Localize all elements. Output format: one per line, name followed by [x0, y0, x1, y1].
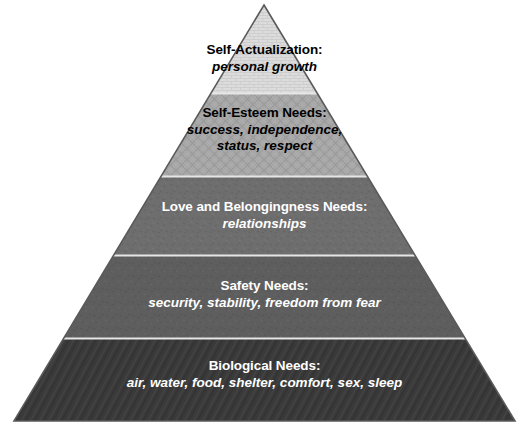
tier-band-biological	[0, 338, 529, 431]
maslow-pyramid-diagram: Self-Actualization: personal growth Self…	[0, 0, 529, 431]
tier-band-love-and-belongingness	[0, 176, 529, 255]
tier-band-safety	[0, 255, 529, 338]
tier-band-self-actualization	[0, 0, 529, 93]
tier-band-self-esteem	[0, 93, 529, 176]
pyramid-graphic	[0, 0, 529, 431]
